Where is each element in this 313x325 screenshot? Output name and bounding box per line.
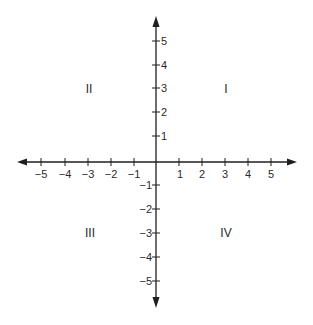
y-axis-down-arrow-icon	[153, 297, 160, 308]
y-label-2: 2	[161, 106, 167, 118]
x-label-neg3: −3	[82, 168, 95, 180]
x-label-4: 4	[245, 168, 251, 180]
quadrant-label-iv: IV	[220, 226, 231, 240]
y-label-neg3: −3	[139, 227, 152, 239]
x-axis-left-arrow-icon	[17, 159, 27, 166]
x-label-5: 5	[268, 168, 274, 180]
coordinate-plane: −5 −4 −3 −2 −1 1 2 3 4 5 5 4 3 2 1 −1 −2…	[0, 0, 313, 325]
y-label-neg5: −5	[139, 275, 152, 287]
y-axis-up-arrow-icon	[153, 16, 160, 27]
x-label-1: 1	[177, 168, 183, 180]
y-label-3: 3	[161, 82, 167, 94]
y-label-1: 1	[161, 130, 167, 142]
x-label-neg4: −4	[59, 168, 72, 180]
x-label-3: 3	[222, 168, 228, 180]
x-axis-labels: −5 −4 −3 −2 −1 1 2 3 4 5	[35, 168, 274, 180]
y-label-neg2: −2	[139, 203, 152, 215]
x-label-neg1: −1	[128, 168, 141, 180]
y-label-4: 4	[161, 59, 167, 71]
x-label-neg5: −5	[35, 168, 48, 180]
y-label-5: 5	[161, 35, 167, 47]
y-axis-labels-negative: −1 −2 −3 −4 −5	[139, 179, 152, 287]
x-label-2: 2	[199, 168, 205, 180]
quadrant-label-ii: II	[86, 82, 93, 96]
x-axis-right-arrow-icon	[287, 159, 297, 166]
y-label-neg4: −4	[139, 251, 152, 263]
x-label-neg2: −2	[105, 168, 118, 180]
y-axis-labels-positive: 5 4 3 2 1	[161, 35, 167, 142]
quadrant-label-iii: III	[85, 226, 95, 240]
y-label-neg1: −1	[139, 179, 152, 191]
quadrant-label-i: I	[224, 82, 227, 96]
